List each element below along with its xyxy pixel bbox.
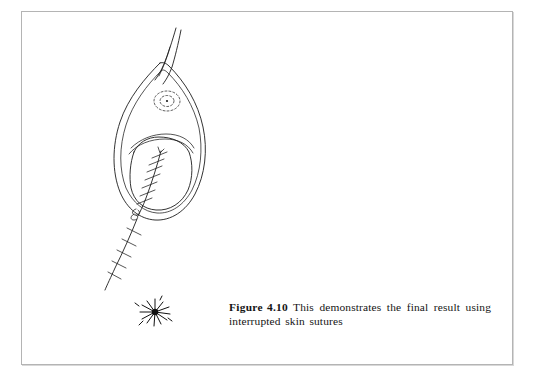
starburst-mark (135, 296, 172, 326)
suture-tail (105, 219, 141, 290)
figure-page: Figure 4.10This demonstrates the final r… (0, 0, 536, 388)
figure-number: Figure 4.10 (229, 301, 288, 313)
inner-sac (129, 134, 194, 210)
figure-caption: Figure 4.10This demonstrates the final r… (229, 301, 491, 328)
dashed-marker-circle (154, 91, 180, 111)
surgical-line-drawing (0, 0, 536, 388)
outer-contour (114, 63, 205, 220)
spermatic-cord (155, 28, 181, 84)
